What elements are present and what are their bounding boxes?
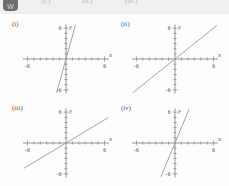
svg-text:x: x bbox=[217, 52, 221, 58]
plot-i: -66-66xy bbox=[6, 18, 114, 100]
svg-text:y: y bbox=[177, 108, 181, 114]
svg-text:6: 6 bbox=[103, 63, 106, 69]
svg-text:x: x bbox=[108, 136, 112, 142]
svg-text:x: x bbox=[217, 136, 221, 142]
clipped-label-3: (iii.) bbox=[125, 0, 137, 5]
svg-text:6: 6 bbox=[212, 63, 215, 69]
graph-panel-i: (i) -66-66xy bbox=[6, 18, 114, 100]
graph-panel-iv: (iv) -66-66xy bbox=[115, 102, 223, 184]
svg-text:6: 6 bbox=[168, 25, 171, 31]
clipped-header-strip: W (i.) (ii.) (iii.) bbox=[0, 0, 229, 13]
svg-text:-6: -6 bbox=[166, 171, 171, 177]
svg-text:-6: -6 bbox=[166, 87, 171, 93]
svg-text:-6: -6 bbox=[25, 63, 30, 69]
app-badge-icon[interactable]: W bbox=[3, 0, 18, 11]
svg-text:-6: -6 bbox=[134, 147, 139, 153]
svg-text:-6: -6 bbox=[57, 171, 62, 177]
plot-iii: -66-66xy bbox=[6, 102, 114, 184]
svg-text:y: y bbox=[68, 108, 72, 114]
svg-text:6: 6 bbox=[59, 109, 62, 115]
plot-ii: -66-66xy bbox=[115, 18, 223, 100]
svg-text:-6: -6 bbox=[134, 63, 139, 69]
clipped-label-1: (i.) bbox=[42, 0, 50, 5]
app-badge-glyph: W bbox=[7, 3, 14, 11]
svg-text:y: y bbox=[177, 24, 181, 30]
plot-iv: -66-66xy bbox=[115, 102, 223, 184]
svg-text:-6: -6 bbox=[57, 87, 62, 93]
screenshot-root: W (i.) (ii.) (iii.) (i) -66-66xy (ii) -6… bbox=[0, 0, 229, 186]
svg-text:6: 6 bbox=[59, 25, 62, 31]
svg-text:x: x bbox=[108, 52, 112, 58]
graph-panel-iii: (iii) -66-66xy bbox=[6, 102, 114, 184]
graph-panel-ii: (ii) -66-66xy bbox=[115, 18, 223, 100]
svg-text:6: 6 bbox=[168, 109, 171, 115]
svg-text:6: 6 bbox=[212, 147, 215, 153]
worksheet-card: (i) -66-66xy (ii) -66-66xy (iii) -66-66x… bbox=[0, 13, 229, 186]
clipped-label-2: (ii.) bbox=[82, 0, 92, 5]
svg-text:y: y bbox=[68, 24, 72, 30]
svg-text:6: 6 bbox=[103, 147, 106, 153]
svg-text:-6: -6 bbox=[25, 147, 30, 153]
graph-grid: (i) -66-66xy (ii) -66-66xy (iii) -66-66x… bbox=[0, 14, 229, 186]
